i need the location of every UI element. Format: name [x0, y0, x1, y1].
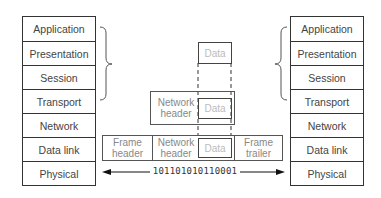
right-layer-presentation: Presentation — [291, 41, 363, 65]
left-brace — [100, 27, 112, 100]
frame-data-box: Data — [198, 138, 232, 158]
left-layer-network: Network — [23, 113, 95, 137]
right-osi-stack: Application Presentation Session Transpo… — [290, 16, 364, 186]
right-layer-data-link: Data link — [291, 137, 363, 161]
left-layer-session: Session — [23, 65, 95, 89]
packet-network-header: Network header — [154, 97, 198, 119]
left-layer-data-link: Data link — [23, 137, 95, 161]
right-layer-application: Application — [291, 17, 363, 41]
left-layer-application: Application — [23, 17, 95, 41]
bitstream-label: 101101010110001 — [150, 166, 240, 176]
right-layer-session: Session — [291, 65, 363, 89]
left-layer-presentation: Presentation — [23, 41, 95, 65]
frame-network-header: Network header — [154, 137, 198, 159]
left-layer-transport: Transport — [23, 89, 95, 113]
left-osi-stack: Application Presentation Session Transpo… — [22, 16, 96, 186]
arrow-left-head — [102, 169, 111, 175]
right-brace — [275, 27, 287, 100]
packet-data-box: Data — [198, 98, 232, 119]
right-layer-network: Network — [291, 113, 363, 137]
left-layer-physical: Physical — [23, 161, 95, 185]
upper-data-box: Data — [198, 42, 232, 64]
arrow-right-head — [276, 169, 285, 175]
frame-header: Frame header — [102, 135, 153, 161]
right-layer-transport: Transport — [291, 89, 363, 113]
right-layer-physical: Physical — [291, 161, 363, 185]
frame-trailer: Frame trailer — [234, 135, 283, 161]
